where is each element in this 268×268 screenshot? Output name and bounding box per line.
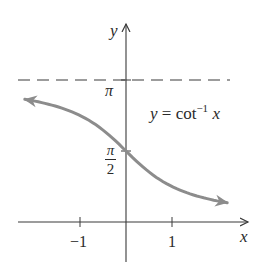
pi-numerator: π bbox=[107, 143, 115, 158]
cot-inverse-graph: y x π π 2 −1 1 y = cot−1 x bbox=[0, 0, 268, 268]
equation-y: y bbox=[150, 104, 158, 123]
x-tick-label-1: 1 bbox=[168, 234, 176, 250]
equation-x: x bbox=[212, 104, 220, 123]
x-tick-label-neg1: −1 bbox=[70, 234, 87, 250]
equation-mid: = cot bbox=[158, 104, 197, 123]
function-equation-label: y = cot−1 x bbox=[150, 103, 220, 122]
two-denominator: 2 bbox=[107, 162, 115, 177]
y-axis-label: y bbox=[110, 22, 118, 39]
y-tick-label-pi-over-2: π 2 bbox=[105, 143, 116, 177]
equation-exponent: −1 bbox=[196, 102, 208, 114]
plot-canvas bbox=[0, 0, 268, 268]
fraction-bar bbox=[105, 159, 116, 160]
x-axis-label: x bbox=[240, 228, 248, 245]
y-tick-label-pi: π bbox=[105, 83, 113, 99]
